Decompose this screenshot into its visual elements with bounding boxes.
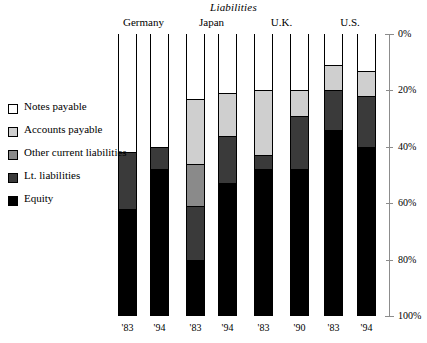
segment-equity — [219, 183, 236, 316]
chart-liabilities: Liabilities GermanyJapanU.K.U.S. '83'94'… — [0, 0, 427, 343]
segment-lt-liabilities — [255, 155, 272, 169]
segment-notes-payable — [187, 34, 204, 99]
legend-label: Other current liabilities — [24, 146, 127, 158]
segment-divider — [358, 96, 375, 97]
y-axis-label-40: 40% — [398, 141, 416, 152]
category-label-7: '94 — [357, 322, 376, 333]
segment-lt-liabilities — [291, 116, 308, 170]
group-label-japan: Japan — [186, 16, 237, 28]
legend-label: Accounts payable — [24, 123, 103, 135]
segment-equity — [151, 169, 168, 316]
segment-accounts-payable — [187, 99, 204, 164]
segment-divider — [255, 90, 272, 91]
segment-divider — [151, 169, 168, 170]
segment-equity — [291, 169, 308, 316]
y-axis-tick-20 — [386, 90, 393, 91]
segment-divider — [219, 136, 236, 137]
segment-notes-payable — [291, 34, 308, 90]
segment-divider — [255, 155, 272, 156]
bar-uk-90 — [290, 34, 309, 316]
y-axis-label-0: 0% — [398, 28, 411, 39]
segment-divider — [325, 130, 342, 131]
group-label-uk: U.K. — [254, 16, 309, 28]
bar-japan-83 — [186, 34, 205, 316]
segment-equity — [325, 130, 342, 316]
segment-divider — [255, 169, 272, 170]
y-axis-tick-80 — [386, 260, 393, 261]
category-label-0: '83 — [118, 322, 137, 333]
chart-title: Liabilities — [110, 1, 357, 13]
bar-japan-94 — [218, 34, 237, 316]
segment-divider — [325, 90, 342, 91]
segment-equity — [119, 209, 136, 316]
segment-notes-payable — [358, 34, 375, 71]
bar-uk-83 — [254, 34, 273, 316]
legend-swatch-icon — [8, 104, 18, 114]
category-label-2: '83 — [186, 322, 205, 333]
y-axis-tick-40 — [386, 147, 393, 148]
segment-accounts-payable — [358, 71, 375, 96]
segment-divider — [187, 164, 204, 165]
category-label-4: '83 — [254, 322, 273, 333]
bar-germany-94 — [150, 34, 169, 316]
y-axis-label-100: 100% — [398, 310, 421, 321]
legend-label: Notes payable — [24, 100, 87, 112]
segment-lt-liabilities — [119, 152, 136, 208]
legend-swatch-icon — [8, 127, 18, 137]
group-label-germany: Germany — [118, 16, 169, 28]
segment-divider — [325, 65, 342, 66]
segment-lt-liabilities — [219, 136, 236, 184]
bar-germany-83 — [118, 34, 137, 316]
segment-divider — [187, 260, 204, 261]
segment-divider — [119, 209, 136, 210]
segment-notes-payable — [219, 34, 236, 93]
segment-divider — [291, 116, 308, 117]
segment-equity — [358, 147, 375, 316]
segment-divider — [291, 169, 308, 170]
segment-lt-liabilities — [358, 96, 375, 147]
y-axis-tick-0 — [385, 34, 394, 35]
y-axis-tick-60 — [386, 203, 393, 204]
segment-lt-liabilities — [187, 206, 204, 260]
segment-equity — [187, 260, 204, 316]
segment-notes-payable — [151, 34, 168, 147]
y-axis-label-60: 60% — [398, 197, 416, 208]
category-label-1: '94 — [150, 322, 169, 333]
legend-swatch-icon — [8, 196, 18, 206]
category-label-5: '90 — [290, 322, 309, 333]
legend-label: Lt. liabilities — [24, 169, 80, 181]
segment-notes-payable — [119, 34, 136, 152]
segment-divider — [187, 99, 204, 100]
segment-divider — [358, 71, 375, 72]
segment-divider — [187, 206, 204, 207]
segment-divider — [358, 147, 375, 148]
segment-accounts-payable — [325, 65, 342, 90]
legend-label: Equity — [24, 192, 53, 204]
legend-swatch-icon — [8, 150, 18, 160]
segment-accounts-payable — [255, 90, 272, 155]
segment-divider — [219, 93, 236, 94]
segment-notes-payable — [325, 34, 342, 65]
category-label-3: '94 — [218, 322, 237, 333]
group-label-us: U.S. — [324, 16, 376, 28]
y-axis-line — [389, 34, 390, 316]
legend-swatch-icon — [8, 173, 18, 183]
y-axis-label-80: 80% — [398, 254, 416, 265]
y-axis-label-20: 20% — [398, 84, 416, 95]
segment-divider — [151, 147, 168, 148]
segment-other-current-liabilities — [187, 164, 204, 206]
y-axis-tick-100 — [385, 316, 394, 317]
bar-us-94 — [357, 34, 376, 316]
segment-notes-payable — [255, 34, 272, 90]
category-label-6: '83 — [324, 322, 343, 333]
segment-lt-liabilities — [325, 90, 342, 129]
segment-lt-liabilities — [151, 147, 168, 170]
bar-us-83 — [324, 34, 343, 316]
segment-divider — [219, 183, 236, 184]
segment-equity — [255, 169, 272, 316]
segment-accounts-payable — [291, 90, 308, 115]
segment-accounts-payable — [219, 93, 236, 135]
segment-divider — [291, 90, 308, 91]
